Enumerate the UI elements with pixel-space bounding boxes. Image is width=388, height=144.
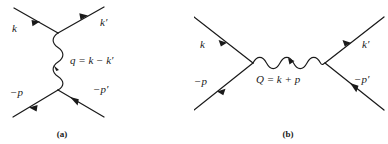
panel-b-label-minusp: −p <box>194 75 207 87</box>
panel-b-label-kprime: k′ <box>362 38 370 50</box>
panel-a-caption: (a) <box>57 129 68 139</box>
panel-b-label-propagator: Q = k + p <box>256 73 301 85</box>
panel-a-label-kprime: k′ <box>100 16 108 28</box>
panel-a-label-propagator: q = k − k′ <box>70 54 114 66</box>
feynman-diagram-panel-b: k −p k′ −p′ Q = k + p (b) <box>194 0 388 144</box>
panel-a-incoming-k-line <box>14 8 58 33</box>
panel-a-incoming-minuspprime-arrowhead <box>70 97 79 106</box>
feynman-diagram-panel-a: k k′ −p −p′ q = k − k′ (a) <box>0 0 194 144</box>
panel-b-outgoing-kprime-line <box>325 17 384 63</box>
panel-a-incoming-k-arrowhead <box>32 20 41 26</box>
panel-a-label-minusp: −p <box>10 86 23 98</box>
panel-b-label-minuspprime: −p′ <box>354 73 370 85</box>
panel-a-propagator-arrowhead <box>54 65 59 71</box>
panel-b-outgoing-minusp-arrowhead <box>217 89 226 96</box>
panel-b-label-k: k <box>200 38 206 50</box>
panel-b-caption: (b) <box>283 129 294 139</box>
figure-canvas: k k′ −p −p′ q = k − k′ (a) <box>0 0 388 144</box>
panel-a-label-k: k <box>12 22 18 34</box>
panel-a-outgoing-kprime-line <box>58 7 104 33</box>
panel-a-label-minuspprime: −p′ <box>93 83 109 95</box>
panel-a-photon-propagator <box>53 33 63 90</box>
